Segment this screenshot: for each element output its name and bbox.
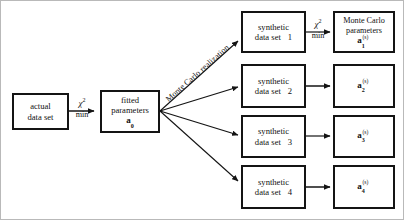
fitted-parameters-symbol: a0 [126, 115, 134, 128]
synthetic-data-set-3-index: 3 [288, 137, 292, 147]
synthetic-data-set-3-line-1: synthetic [258, 126, 289, 136]
synthetic-data-set-4-index: 4 [288, 187, 292, 197]
synthetic-data-set-2-line-1: synthetic [258, 76, 289, 86]
monte-carlo-parameters-1-symbol: a1(s) [357, 35, 370, 48]
synthetic-data-set-4-line-1: synthetic [258, 177, 289, 187]
synthetic-data-set-2-text: data set [255, 86, 281, 96]
actual-data-set-line-2: data set [27, 112, 53, 122]
chi-square-min-label-actual: χ2 min [72, 93, 92, 119]
node-synthetic-data-set-3: synthetic data set 3 [241, 115, 306, 158]
node-monte-carlo-parameters-1: Monte Carlo parameters a1(s) [333, 11, 395, 53]
chi-square-min-label-synthetic-1: χ2 min [308, 14, 328, 40]
monte-carlo-parameters-1-line-1: Monte Carlo [343, 16, 385, 26]
chi-square-symbol-actual: χ2 [79, 98, 86, 108]
synthetic-data-set-1-text: data set [255, 32, 281, 42]
synthetic-data-set-3-text: data set [255, 137, 281, 147]
synthetic-data-set-4-text: data set [255, 187, 281, 197]
synthetic-data-set-4-line-2: data set 4 [255, 187, 292, 197]
monte-carlo-parameters-3-symbol: a3(s) [357, 130, 370, 143]
node-synthetic-data-set-1: synthetic data set 1 [241, 11, 306, 53]
synthetic-data-set-2-line-2: data set 2 [255, 86, 292, 96]
monte-carlo-parameters-4-symbol: a4(s) [357, 181, 370, 194]
node-synthetic-data-set-4: synthetic data set 4 [241, 165, 306, 209]
synthetic-data-set-1-line-1: synthetic [258, 22, 289, 32]
monte-carlo-diagram: actual data set χ2 min fitted parameters… [0, 0, 404, 220]
chi-square-symbol-synthetic-1: χ2 [315, 19, 322, 29]
synthetic-data-set-1-index: 1 [288, 32, 292, 42]
node-monte-carlo-parameters-4: a4(s) [333, 165, 395, 209]
synthetic-data-set-3-line-2: data set 3 [255, 137, 292, 147]
synthetic-data-set-2-index: 2 [288, 86, 292, 96]
node-monte-carlo-parameters-2: a2(s) [333, 64, 395, 108]
edge-fitted-to-synthetic-3 [160, 111, 238, 135]
actual-data-set-line-1: actual [30, 101, 51, 111]
fitted-parameters-line-2: parameters [111, 105, 149, 115]
fitted-parameters-line-1: fitted [121, 95, 139, 105]
min-label-synthetic-1: min [308, 32, 328, 40]
node-fitted-parameters: fitted parameters a0 [100, 90, 160, 133]
monte-carlo-parameters-2-symbol: a2(s) [357, 80, 370, 93]
node-monte-carlo-parameters-3: a3(s) [333, 115, 395, 158]
node-synthetic-data-set-2: synthetic data set 2 [241, 64, 306, 108]
edge-fitted-to-synthetic-4 [160, 111, 238, 181]
node-actual-data-set: actual data set [12, 93, 69, 130]
synthetic-data-set-1-line-2: data set 1 [255, 32, 292, 42]
min-label-actual: min [72, 111, 92, 119]
